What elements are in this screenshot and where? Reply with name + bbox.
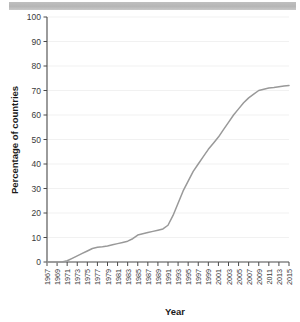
x-tick-label: 2001: [214, 269, 223, 285]
x-tick-label: 1993: [174, 269, 183, 285]
x-tick-label: 1981: [114, 269, 123, 285]
x-tick-label: 1977: [93, 269, 102, 285]
x-tick-label: 1987: [144, 269, 153, 285]
x-tick-label: 1979: [104, 269, 113, 285]
x-tick-label: 2011: [265, 269, 274, 284]
x-tick-label: 1999: [204, 269, 213, 285]
x-tick-label: 1991: [164, 269, 173, 285]
x-axis-ticks-group: 1967196919711973197519771979198119831985…: [43, 262, 294, 285]
line-chart: 0102030405060708090100 19671969197119731…: [0, 0, 300, 322]
x-tick-label: 1997: [194, 269, 203, 285]
x-tick-label: 2013: [275, 269, 284, 285]
y-tick-label: 20: [32, 208, 42, 218]
y-tick-label: 50: [32, 135, 42, 145]
x-tick-label: 2009: [255, 269, 264, 285]
y-tick-label: 60: [32, 110, 42, 120]
y-tick-label: 40: [32, 159, 42, 169]
y-tick-label: 80: [32, 61, 42, 71]
x-tick-label: 1967: [43, 269, 52, 285]
gridlines-group: [47, 17, 289, 238]
y-tick-label: 30: [32, 184, 42, 194]
x-axis-title: Year: [165, 306, 185, 317]
x-tick-label: 1985: [134, 269, 143, 285]
x-tick-label: 1971: [63, 269, 72, 285]
y-tick-label: 90: [32, 37, 42, 47]
x-tick-label: 2015: [285, 269, 294, 285]
x-tick-label: 1969: [53, 269, 62, 285]
chart-figure: 0102030405060708090100 19671969197119731…: [0, 0, 300, 322]
y-tick-label: 0: [36, 257, 41, 267]
y-axis-title: Percentage of countries: [9, 86, 20, 194]
x-tick-label: 2003: [225, 269, 234, 285]
x-tick-label: 1995: [184, 269, 193, 285]
x-tick-label: 2007: [245, 269, 254, 285]
y-tick-label: 10: [32, 233, 42, 243]
x-tick-label: 1983: [124, 269, 133, 285]
y-tick-label: 100: [27, 12, 41, 22]
y-axis-ticks-group: 0102030405060708090100: [27, 12, 47, 267]
x-tick-label: 1973: [73, 269, 82, 285]
x-tick-label: 2005: [235, 269, 244, 285]
x-tick-label: 1989: [154, 269, 163, 285]
x-tick-label: 1975: [83, 269, 92, 285]
data-series-line: [47, 86, 289, 262]
y-tick-label: 70: [32, 86, 42, 96]
